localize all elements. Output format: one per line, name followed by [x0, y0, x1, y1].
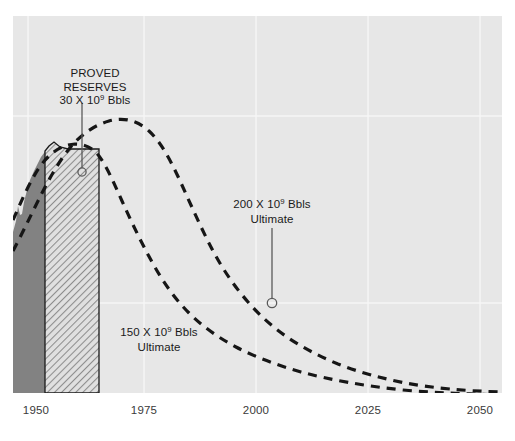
annotation-unit: Bbls: [104, 94, 130, 106]
x-tick-label: 1975: [131, 404, 157, 416]
annotation-line: Ultimate: [120, 341, 197, 355]
plot-area: PROVED RESERVES 30 X 109 Bbls 200 X 109 …: [13, 16, 502, 393]
annotation-line: 150 X 109 Bbls: [120, 326, 197, 341]
annotation-text: 150 X 10: [120, 326, 167, 338]
exponent: 9: [280, 197, 284, 206]
annotation-text: 30 X 10: [60, 94, 100, 106]
exponent: 9: [100, 93, 104, 102]
x-axis: 1950 1975 2000 2025 2050: [0, 404, 515, 424]
annotation-line: 200 X 109 Bbls: [233, 198, 310, 213]
annotation-line: 30 X 109 Bbls: [60, 94, 131, 109]
annotation-line: Ultimate: [233, 213, 310, 227]
annotation-unit: Bbls: [172, 326, 198, 338]
x-tick-label: 2050: [467, 404, 493, 416]
ultimate-200-leader: [267, 228, 276, 308]
exponent: 9: [167, 325, 171, 334]
x-tick-label: 1950: [23, 404, 49, 416]
annotation-text: 200 X 10: [233, 198, 280, 210]
proved-reserves-region: [45, 142, 99, 393]
annotation-unit: Bbls: [285, 198, 311, 210]
x-tick-label: 2000: [243, 404, 269, 416]
peak-oil-chart-figure: PROVED RESERVES 30 X 109 Bbls 200 X 109 …: [0, 0, 515, 441]
annotation-line: PROVED: [60, 67, 131, 81]
annotation-ultimate-150: 150 X 109 Bbls Ultimate: [120, 326, 197, 354]
annotation-proved-reserves: PROVED RESERVES 30 X 109 Bbls: [60, 67, 131, 109]
annotation-ultimate-200: 200 X 109 Bbls Ultimate: [233, 198, 310, 226]
annotation-line: RESERVES: [60, 81, 131, 95]
x-tick-label: 2025: [355, 404, 381, 416]
